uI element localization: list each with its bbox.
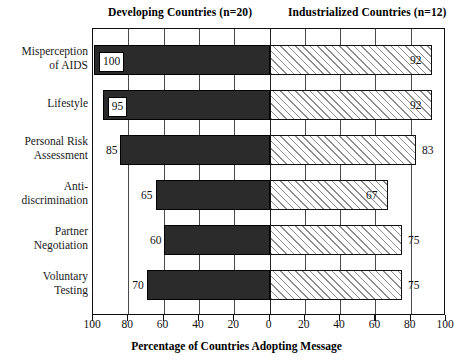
bar-row: 10092 [93, 45, 444, 75]
category-label-line: discrimination [0, 194, 88, 208]
bar-industrialized [270, 225, 402, 255]
bar-value-industrialized: 67 [366, 180, 378, 210]
category-label-line: Partner [0, 225, 88, 239]
bar-row: 8583 [93, 135, 444, 165]
category-label: Anti-discrimination [0, 180, 88, 207]
bar-value-developing: 85 [97, 135, 117, 165]
axis-tick-label: 40 [324, 318, 354, 330]
bar-value-industrialized: 92 [410, 90, 422, 120]
chart-plot-area: 1009295928583656760757075 [92, 28, 445, 315]
axis-tick-label: 80 [395, 318, 425, 330]
axis-tick-label: 100 [430, 318, 460, 330]
bar-value-developing: 100 [99, 52, 124, 72]
category-label-line: Testing [0, 284, 88, 298]
axis-tick-label: 40 [183, 318, 213, 330]
category-label-line: Misperception [0, 45, 88, 59]
axis-tick-label: 20 [218, 318, 248, 330]
bar-value-developing: 60 [141, 225, 161, 255]
category-label: VoluntaryTesting [0, 270, 88, 297]
bar-value-industrialized: 75 [408, 225, 420, 255]
category-label-line: Assessment [0, 149, 88, 163]
axis-tick-label: 100 [77, 318, 107, 330]
category-label-line: of AIDS [0, 59, 88, 73]
legend-heading-industrialized: Industrialized Countries (n=12) [288, 6, 447, 18]
x-axis-title: Percentage of Countries Adopting Message [0, 340, 473, 352]
x-axis-tick-labels: 10080604020020406080100 [0, 318, 473, 336]
axis-tick-label: 60 [148, 318, 178, 330]
category-label-line: Negotiation [0, 239, 88, 253]
category-label-line: Voluntary [0, 270, 88, 284]
category-label-line: Lifestyle [0, 97, 88, 111]
legend-heading-developing: Developing Countries (n=20) [108, 6, 252, 18]
category-label: Misperceptionof AIDS [0, 45, 88, 72]
bar-row: 6567 [93, 180, 444, 210]
bar-developing [164, 225, 270, 255]
axis-tick-label: 60 [359, 318, 389, 330]
category-label: Personal RiskAssessment [0, 135, 88, 162]
bar-value-industrialized: 92 [410, 45, 422, 75]
bar-developing [120, 135, 270, 165]
category-label: Lifestyle [0, 97, 88, 111]
bar-industrialized [270, 135, 416, 165]
bar-value-developing: 65 [133, 180, 153, 210]
bar-value-industrialized: 83 [422, 135, 434, 165]
category-label-line: Personal Risk [0, 135, 88, 149]
bar-row: 9592 [93, 90, 444, 120]
bar-value-developing: 95 [108, 97, 128, 117]
bar-value-developing: 70 [124, 270, 144, 300]
category-axis-labels: Misperceptionof AIDSLifestylePersonal Ri… [0, 28, 88, 315]
category-label: PartnerNegotiation [0, 225, 88, 252]
axis-tick-label: 20 [289, 318, 319, 330]
axis-tick-label: 80 [112, 318, 142, 330]
bar-developing [156, 180, 270, 210]
bar-industrialized [270, 270, 402, 300]
bar-row: 7075 [93, 270, 444, 300]
bar-industrialized [270, 45, 432, 75]
bar-developing [147, 270, 270, 300]
category-label-line: Anti- [0, 180, 88, 194]
bar-developing [103, 90, 270, 120]
axis-tick-label: 0 [254, 318, 284, 330]
bar-industrialized [270, 90, 432, 120]
bar-value-industrialized: 75 [408, 270, 420, 300]
bar-row: 6075 [93, 225, 444, 255]
